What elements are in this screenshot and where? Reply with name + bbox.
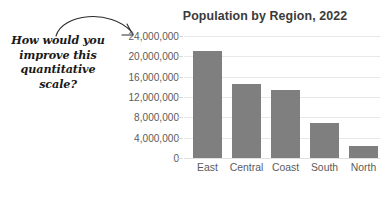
chart-screenshot: How would you improve this quantitative … (0, 0, 386, 198)
annotation-line-4: scale? (2, 77, 114, 92)
annotation-line-1: How would you (2, 33, 114, 48)
y-axis-tick-mark (178, 158, 183, 159)
bar-north[interactable] (349, 146, 378, 158)
y-axis-tick-label: 20,000,000 (105, 51, 179, 62)
y-axis-tick-mark (178, 77, 183, 78)
y-axis-tick-mark (178, 97, 183, 98)
axis-baseline (184, 158, 380, 159)
y-axis-tick-label: 0 (105, 153, 179, 164)
annotation-line-2: improve this (2, 48, 114, 63)
bar-south[interactable] (310, 123, 339, 158)
y-axis-tick-label: 16,000,000 (105, 71, 179, 82)
annotation-text: How would you improve this quantitative … (2, 33, 114, 91)
y-axis-tick-label: 4,000,000 (105, 132, 179, 143)
x-axis-tick-label-north: North (341, 162, 386, 173)
y-axis-tick-label: 24,000,000 (105, 31, 179, 42)
chart-plot-wrapper: 0 4,000,000 8,000,000 12,000,000 16,000,… (105, 36, 380, 191)
y-axis-tick-label: 12,000,000 (105, 92, 179, 103)
chart-title: Population by Region, 2022 (150, 9, 380, 23)
y-axis-tick-label: 8,000,000 (105, 112, 179, 123)
annotation-line-3: quantitative (2, 62, 114, 77)
y-axis-tick-mark (178, 56, 183, 57)
bar-east[interactable] (193, 51, 222, 158)
bar-central[interactable] (232, 84, 261, 158)
bar-series (184, 36, 380, 158)
y-axis-tick-mark (178, 36, 183, 37)
y-axis-tick-mark (178, 117, 183, 118)
plot-area (184, 36, 380, 158)
x-axis-labels: East Central Coast South North (184, 162, 380, 180)
y-axis-tick-mark (178, 138, 183, 139)
bar-coast[interactable] (271, 90, 300, 158)
y-axis-labels: 0 4,000,000 8,000,000 12,000,000 16,000,… (105, 36, 179, 158)
